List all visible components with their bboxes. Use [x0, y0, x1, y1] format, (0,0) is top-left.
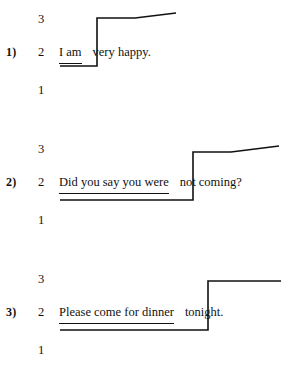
sentence-low-segment: Did you say you were	[59, 174, 169, 194]
sentence-low-segment: I am	[59, 44, 82, 64]
sentence-high-segment: very happy.	[93, 44, 151, 61]
sentence-high-segment: tonight.	[185, 304, 224, 321]
pitch-level-3: 3	[34, 271, 48, 287]
item-number-label: 2)	[6, 174, 32, 190]
pitch-level-3: 3	[34, 141, 48, 157]
pitch-level-3: 3	[34, 11, 48, 27]
pitch-level-1: 1	[34, 82, 48, 98]
pitch-level-2: 2	[34, 44, 48, 60]
pitch-level-1: 1	[34, 342, 48, 358]
exercise-item: 3) 3 2 1 Please come for dinnertonight.	[0, 260, 291, 386]
sentence-high-segment: not coming?	[180, 174, 242, 191]
sentence-text: I amvery happy.	[59, 44, 151, 64]
item-number-label: 3)	[6, 304, 32, 320]
sentence-text: Did you say you werenot coming?	[59, 174, 242, 194]
pitch-level-2: 2	[34, 304, 48, 320]
pitch-level-1: 1	[34, 212, 48, 228]
exercise-item: 1) 3 2 1 I amvery happy.	[0, 0, 291, 128]
item-number-label: 1)	[6, 44, 32, 60]
sentence-low-segment: Please come for dinner	[59, 304, 174, 324]
intonation-worksheet: 1) 3 2 1 I amvery happy. 2) 3 2 1 Did yo…	[0, 0, 291, 386]
pitch-level-2: 2	[34, 174, 48, 190]
exercise-item: 2) 3 2 1 Did you say you werenot coming?	[0, 130, 291, 258]
sentence-text: Please come for dinnertonight.	[59, 304, 223, 324]
